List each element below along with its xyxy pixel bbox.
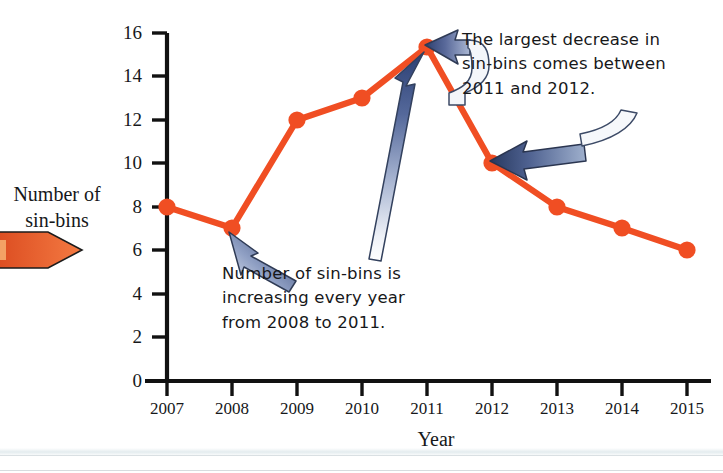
y-tick-label-6: 6 (108, 240, 142, 259)
data-point-2015 (678, 241, 695, 258)
data-point-2013 (548, 198, 565, 215)
x-tick-label-2009: 2009 (265, 400, 329, 417)
x-tick-label-2010: 2010 (330, 400, 394, 417)
scan-artifact-line-1 (0, 455, 723, 456)
data-point-2007 (158, 198, 175, 215)
y-tick-label-16: 16 (108, 23, 142, 42)
y-tick-label-8: 8 (108, 197, 142, 216)
data-point-2010 (353, 89, 370, 106)
x-tick-label-2011: 2011 (395, 400, 459, 417)
x-tick-label-2014: 2014 (590, 400, 654, 417)
x-axis (145, 381, 711, 396)
y-tick-label-14: 14 (108, 66, 142, 85)
y-tick-label-4: 4 (108, 284, 142, 303)
data-point-2014 (613, 219, 630, 236)
x-tick-label-2012: 2012 (460, 400, 524, 417)
y-tick-label-0: 0 (108, 371, 142, 390)
arrow-to-2012 (490, 110, 637, 180)
x-tick-label-2007: 2007 (135, 400, 199, 417)
orange-pointer-tag (0, 232, 82, 268)
chart-figure: 16 14 12 10 8 6 4 2 0 2007 2008 2009 201… (0, 0, 723, 473)
y-tick-label-12: 12 (108, 110, 142, 129)
y-tick-label-10: 10 (108, 153, 142, 172)
scan-artifact-line-2 (0, 470, 723, 471)
y-axis-title-line-2: sin-bins (2, 208, 112, 234)
x-tick-label-2015: 2015 (655, 400, 719, 417)
y-axis-title: Number of sin-bins (2, 182, 112, 233)
x-tick-label-2013: 2013 (525, 400, 589, 417)
annotation-increasing-trend: Number of sin-bins is increasing every y… (222, 262, 482, 335)
data-point-2009 (288, 111, 305, 128)
annotation-largest-decrease: The largest decrease in sin-bins comes b… (462, 28, 712, 101)
x-tick-label-2008: 2008 (200, 400, 264, 417)
y-axis-title-line-1: Number of (2, 182, 112, 208)
y-tick-label-2: 2 (108, 327, 142, 346)
